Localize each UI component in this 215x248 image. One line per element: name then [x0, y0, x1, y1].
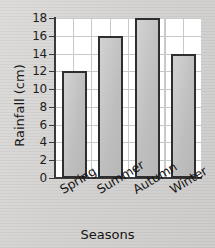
bar-autumn [135, 18, 160, 178]
y-tick-10 [49, 89, 54, 90]
bar-spring [62, 71, 87, 178]
y-tick-4 [49, 142, 54, 143]
y-tick-12 [49, 71, 54, 72]
bar-series [55, 18, 201, 178]
y-tick-8 [49, 107, 54, 108]
y-tick-16 [49, 36, 54, 37]
y-tick-14 [49, 54, 54, 55]
y-tick-0 [49, 178, 54, 179]
y-tick-18 [49, 18, 54, 19]
bar-winter [171, 54, 196, 178]
y-axis-title: Rainfall (cm) [12, 31, 27, 181]
chart-page: 024681012141618 Rainfall (cm) SpringSumm… [0, 0, 215, 248]
y-tick-6 [49, 125, 54, 126]
y-tick-label-18: 18 [17, 12, 47, 24]
bar-summer [98, 36, 123, 178]
y-tick-2 [49, 160, 54, 161]
x-axis-title: Seasons [0, 227, 215, 242]
